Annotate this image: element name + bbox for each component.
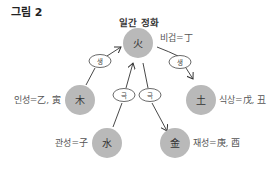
relation-label: 생 — [97, 57, 103, 66]
node-glyph: 金 — [170, 137, 180, 149]
node-fire: 火 비겁=丁 — [123, 28, 193, 58]
node-glyph: 水 — [102, 138, 112, 149]
node-side-label: 비겁=丁 — [160, 32, 193, 43]
node-metal: 金 재성=庚, 酉 — [160, 128, 240, 158]
node-glyph: 木 — [75, 95, 85, 106]
relation-water-fire: 극 — [113, 89, 135, 102]
five-elements-diagram: 생 생 극 극 火 비겁=丁 木 인성=乙, 寅 土 식상=戊, 丑 水 관성=… — [0, 0, 278, 178]
relation-wood-fire: 생 — [89, 55, 111, 68]
node-side-label: 식상=戊, 丑 — [219, 94, 266, 105]
node-glyph: 火 — [133, 38, 143, 49]
relation-label: 생 — [177, 58, 183, 67]
node-side-label: 관성=子 — [55, 138, 88, 148]
node-wood: 木 인성=乙, 寅 — [14, 85, 95, 115]
relation-label: 극 — [147, 92, 153, 100]
node-water: 水 관성=子 — [55, 128, 122, 158]
node-side-label: 인성=乙, 寅 — [14, 94, 61, 105]
relation-fire-earth: 생 — [169, 56, 191, 69]
relation-fire-metal: 극 — [139, 89, 161, 102]
node-side-label: 재성=庚, 酉 — [193, 137, 240, 148]
node-earth: 土 식상=戊, 丑 — [186, 85, 266, 115]
node-glyph: 土 — [196, 94, 206, 106]
relation-label: 극 — [121, 92, 127, 100]
